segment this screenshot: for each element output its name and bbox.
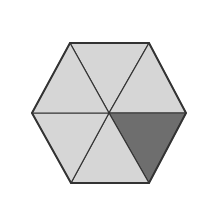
hexagon-diagram xyxy=(0,0,205,203)
hexagon-svg xyxy=(0,0,205,203)
